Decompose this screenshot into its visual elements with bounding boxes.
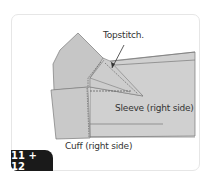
sleeve-label: Sleeve (right side) — [115, 103, 194, 113]
step-number-badge: 11 + 12 — [11, 150, 53, 171]
cuff-label: Cuff (right side) — [65, 141, 132, 151]
topstitch-label: Topstitch. — [103, 30, 144, 40]
cuff-shape — [51, 87, 90, 139]
